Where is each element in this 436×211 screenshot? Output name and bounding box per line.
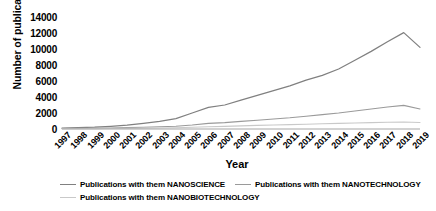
legend-label: Publications with them NANOSCIENCE — [80, 180, 225, 189]
y-tick-label: 8000 — [16, 60, 57, 71]
legend-row: Publications with them NANOSCIENCEPublic… — [36, 178, 416, 191]
series-lines — [62, 33, 420, 129]
legend-line-swatch-icon — [60, 184, 76, 185]
y-tick-label: 10000 — [16, 44, 57, 55]
y-tick-label: 14000 — [16, 12, 57, 23]
series-line — [62, 33, 420, 128]
y-tick-label: 12000 — [16, 28, 57, 39]
y-tick-label: 0 — [16, 124, 57, 135]
chart-legend: Publications with them NANOSCIENCEPublic… — [36, 178, 416, 204]
legend-line-swatch-icon — [235, 184, 251, 185]
x-axis-title: Year — [0, 158, 436, 170]
publications-line-chart: Number of publications 14000120001000080… — [0, 0, 436, 211]
legend-line-swatch-icon — [60, 197, 76, 198]
y-axis-tick-labels: 14000120001000080006000400020000 — [16, 12, 57, 134]
legend-item[interactable]: Publications with them NANOTECHNOLOGY — [235, 180, 421, 189]
legend-row: Publications with them NANOBIOTECHNOLOGY — [36, 191, 416, 204]
legend-label: Publications with them NANOTECHNOLOGY — [255, 180, 421, 189]
legend-item[interactable]: Publications with them NANOSCIENCE — [60, 180, 225, 189]
x-axis-tick-labels: 1997199819992000200120022003200420052006… — [62, 130, 420, 160]
legend-item[interactable]: Publications with them NANOBIOTECHNOLOGY — [60, 193, 260, 202]
plot-area — [62, 17, 420, 129]
y-tick-label: 4000 — [16, 92, 57, 103]
plot-svg — [62, 17, 420, 129]
legend-label: Publications with them NANOBIOTECHNOLOGY — [80, 193, 260, 202]
series-line — [62, 105, 420, 128]
y-tick-label: 2000 — [16, 108, 57, 119]
y-tick-label: 6000 — [16, 76, 57, 87]
